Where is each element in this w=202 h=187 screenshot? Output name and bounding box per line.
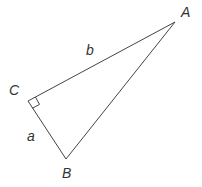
side-label-a: a xyxy=(27,128,35,144)
vertex-label-c: C xyxy=(9,82,20,98)
triangle-diagram: A C B b a xyxy=(0,0,202,187)
side-label-b: b xyxy=(86,42,94,58)
triangle-abc xyxy=(28,22,175,159)
vertex-label-a: A xyxy=(180,4,190,20)
vertex-label-b: B xyxy=(62,165,71,181)
